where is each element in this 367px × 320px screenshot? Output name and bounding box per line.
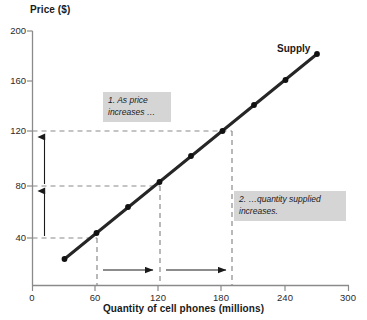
- data-point: [157, 179, 163, 185]
- data-point: [94, 230, 100, 236]
- y-tick-label-200: 200: [0, 25, 26, 36]
- data-point: [220, 128, 226, 134]
- supply-curve-figure: Price ($): [0, 0, 367, 320]
- data-point: [251, 102, 257, 108]
- x-tick-label-180: 180: [206, 292, 236, 303]
- x-axis-title: Quantity of cell phones (millions): [0, 303, 367, 314]
- y-tick-marks: [27, 31, 33, 238]
- supply-series-label: Supply: [277, 43, 310, 54]
- x-tick-label-240: 240: [270, 292, 300, 303]
- data-point: [314, 51, 320, 57]
- y-tick-label-160: 160: [0, 75, 26, 86]
- x-tick-label-0: 0: [17, 292, 47, 303]
- annotation-step-1: 1. As price increases …: [103, 92, 171, 122]
- x-tick-marks: [33, 286, 349, 292]
- guide-lines-dashed: [33, 131, 233, 285]
- x-tick-label-60: 60: [80, 292, 110, 303]
- x-tick-label-120: 120: [143, 292, 173, 303]
- x-tick-label-300: 300: [333, 292, 363, 303]
- y-tick-label-120: 120: [0, 125, 26, 136]
- annotation-step-2: 2. …quantity supplied increases.: [234, 191, 346, 221]
- data-point: [283, 77, 289, 83]
- data-point: [188, 153, 194, 159]
- y-tick-label-40: 40: [0, 232, 26, 243]
- chart-canvas: [0, 0, 367, 320]
- data-point: [62, 256, 68, 262]
- data-point: [125, 204, 131, 210]
- y-tick-label-80: 80: [0, 180, 26, 191]
